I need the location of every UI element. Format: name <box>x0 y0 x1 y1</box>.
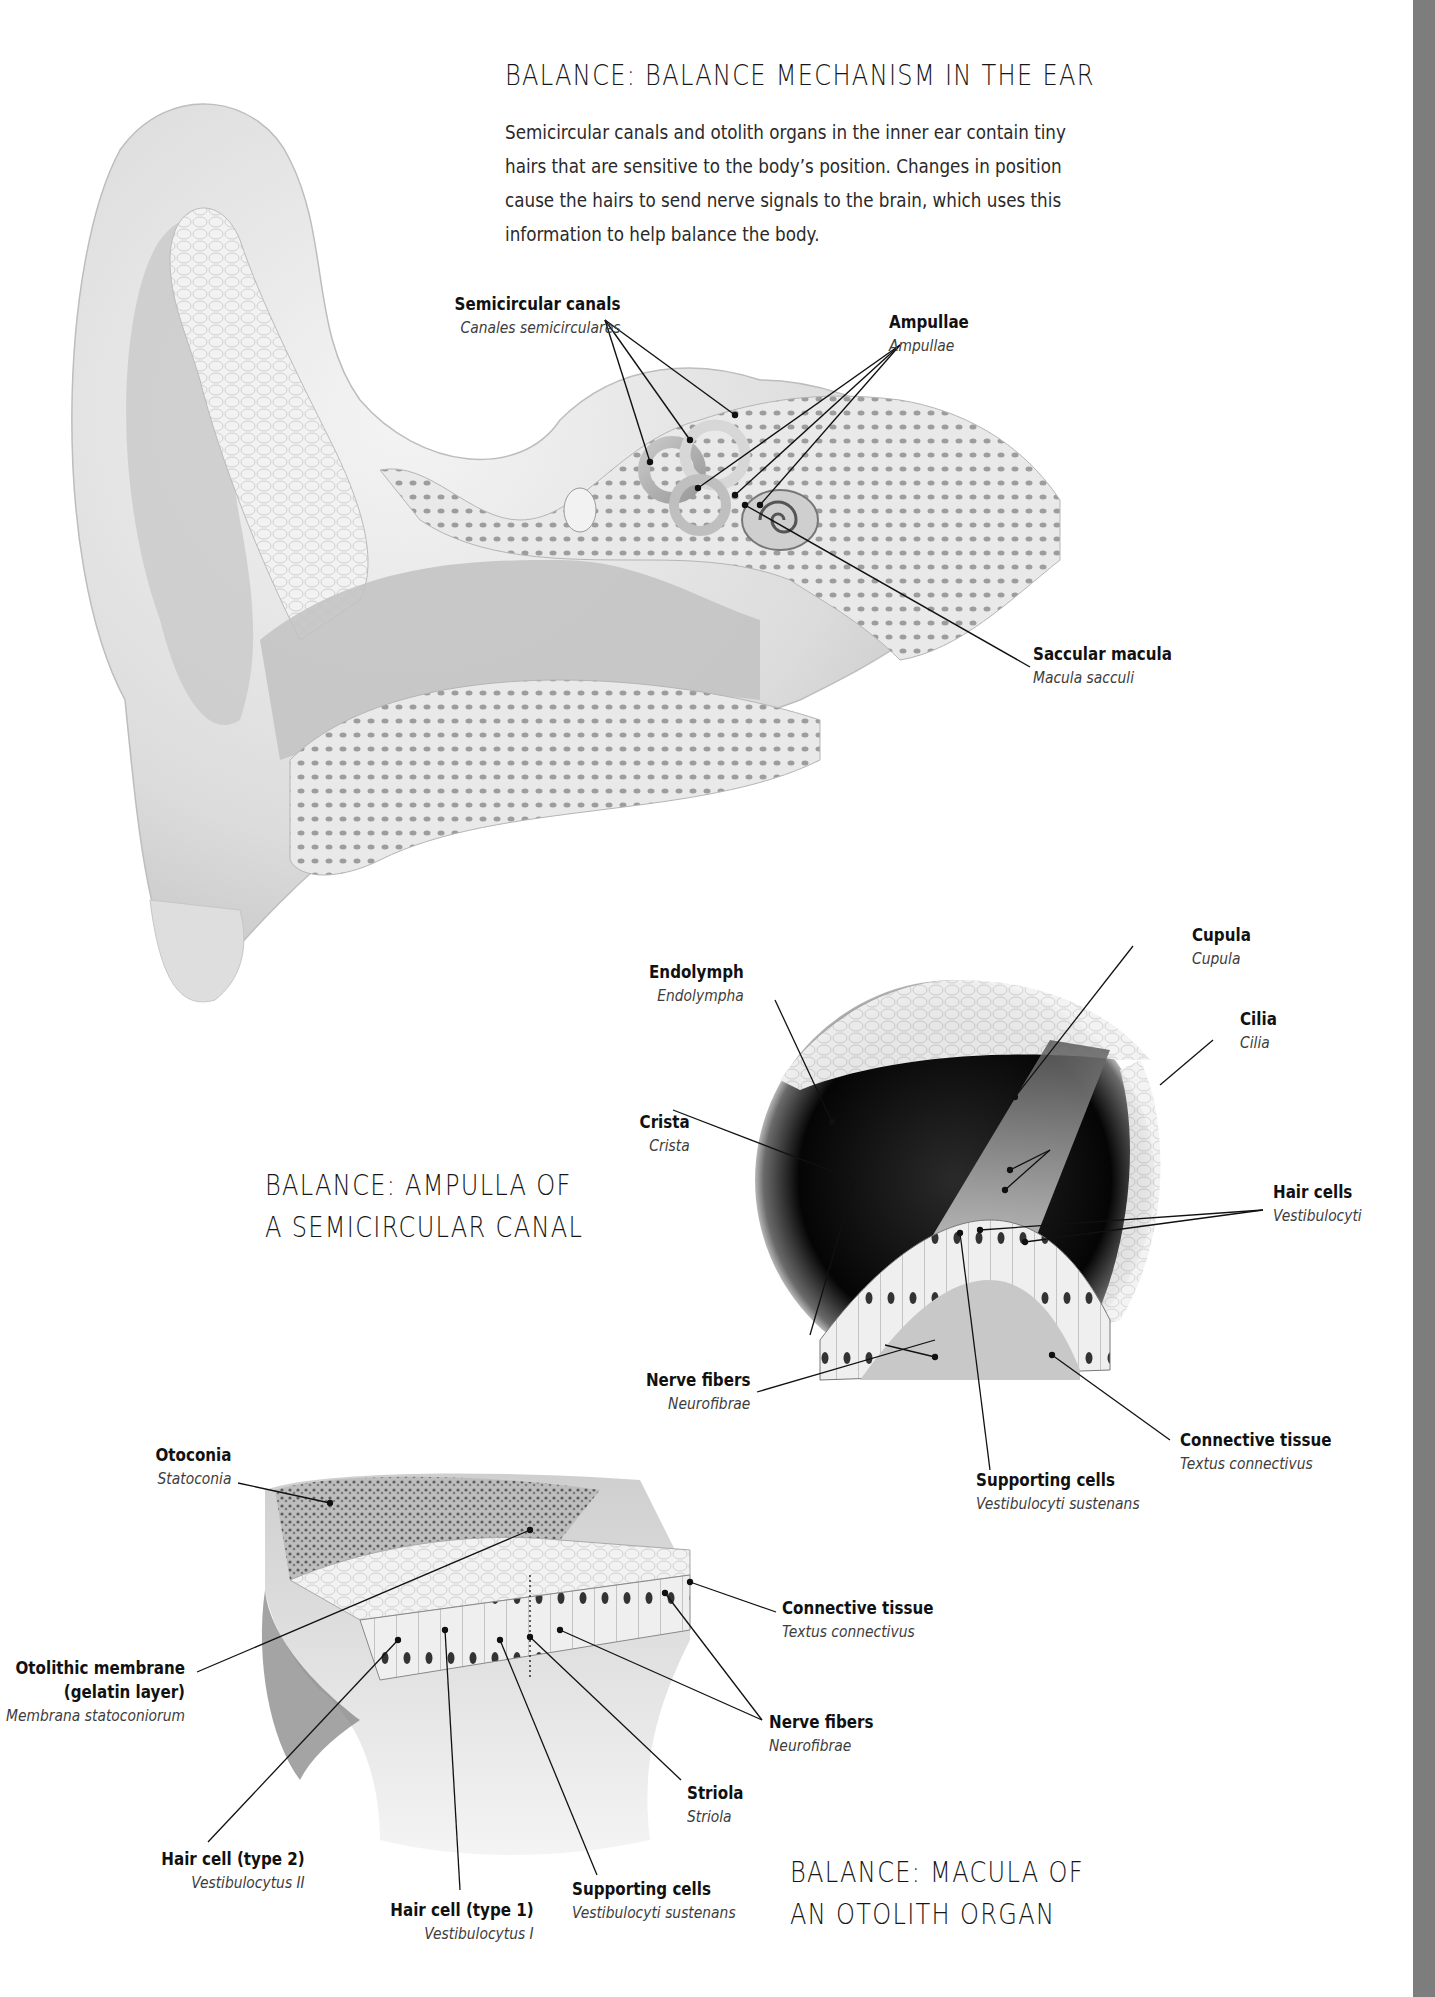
label-otoconia: Otoconia Statoconia <box>155 1443 231 1491</box>
section1-title: BALANCE: BALANCE MECHANISM IN THE EAR <box>505 58 1095 94</box>
intro-line: information to help balance the body. <box>505 218 1141 252</box>
intro-line: cause the hairs to send nerve signals to… <box>505 184 1141 218</box>
section3-title: BALANCE: MACULA OF AN OTOLITH ORGAN <box>790 1852 1084 1936</box>
intro-line: Semicircular canals and otolith organs i… <box>505 116 1141 150</box>
label-otolithic-membrane: Otolithic membrane (gelatin layer) Membr… <box>6 1656 185 1728</box>
label-nerve-fibers-ampulla: Nerve fibers Neurofibrae <box>646 1368 750 1416</box>
label-connective-tissue-macula: Connective tissue Textus connectivus <box>782 1596 933 1644</box>
label-cilia: Cilia Cilia <box>1240 1007 1277 1055</box>
label-supporting-cells-macula: Supporting cells Vestibulocyti sustenans <box>572 1877 736 1925</box>
label-hair-cells: Hair cells Vestibulocyti <box>1273 1180 1362 1228</box>
label-saccular-macula: Saccular macula Macula sacculi <box>1033 642 1172 690</box>
label-cupula: Cupula Cupula <box>1192 923 1251 971</box>
label-endolymph: Endolymph Endolympha <box>649 960 744 1008</box>
label-ampullae: Ampullae Ampullae <box>889 310 969 358</box>
section2-title: BALANCE: AMPULLA OF A SEMICIRCULAR CANAL <box>265 1165 583 1249</box>
label-connective-tissue-ampulla: Connective tissue Textus connectivus <box>1180 1428 1331 1476</box>
label-nerve-fibers-macula: Nerve fibers Neurofibrae <box>769 1710 873 1758</box>
label-striola: Striola Striola <box>687 1781 744 1829</box>
label-hair-cell-type1: Hair cell (type 1) Vestibulocytus I <box>391 1898 534 1946</box>
page-edge-bar <box>1413 0 1435 1997</box>
label-crista: Crista Crista <box>640 1110 690 1158</box>
label-hair-cell-type2: Hair cell (type 2) Vestibulocytus II <box>162 1847 305 1895</box>
label-supporting-cells-ampulla: Supporting cells Vestibulocyti sustenans <box>976 1468 1140 1516</box>
intro-line: hairs that are sensitive to the body’s p… <box>505 150 1141 184</box>
label-semicircular-canals: Semicircular canals Canales semicircular… <box>454 292 620 340</box>
section1-intro: Semicircular canals and otolith organs i… <box>505 116 1141 252</box>
